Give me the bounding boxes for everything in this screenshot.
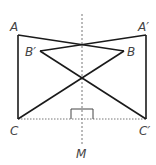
label-a: A <box>9 20 18 34</box>
label-b-prime: B′ <box>25 45 36 59</box>
label-b: B <box>127 45 135 59</box>
label-a-prime: A′ <box>137 20 149 34</box>
label-c: C <box>10 124 19 138</box>
reflection-diagram: A A′ B′ B C C′ M <box>0 0 156 165</box>
label-c-prime: C′ <box>139 124 150 138</box>
label-m: M <box>76 147 87 161</box>
